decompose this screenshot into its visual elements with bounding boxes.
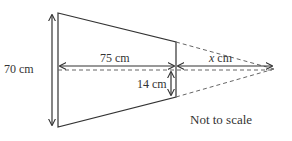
length-label: 75 cm	[100, 51, 130, 65]
x-length-label: x cm	[208, 51, 233, 65]
dashed-extension-bottom	[176, 69, 274, 97]
trapezium-diagram: 70 cm 75 cm x cm 14 cm Not to scale	[0, 0, 292, 141]
height-right-label: 14 cm	[137, 77, 167, 91]
height-left-label: 70 cm	[4, 62, 34, 76]
not-to-scale-note: Not to scale	[190, 112, 252, 127]
